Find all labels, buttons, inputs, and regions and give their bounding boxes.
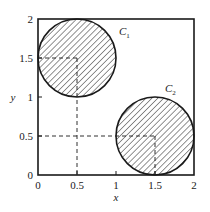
diagram-canvas: 0 0.5 1 1.5 2 0 0.5 1 1.5 2 x y C1 C2 (0, 0, 210, 212)
x-tick-2: 2 (191, 179, 197, 191)
diagram-figure: 0 0.5 1 1.5 2 0 0.5 1 1.5 2 x y C1 C2 (0, 0, 210, 212)
y-tick-1-5: 1.5 (19, 52, 33, 64)
x-tick-1: 1 (113, 179, 119, 191)
circle-c1-label: C1 (119, 25, 130, 40)
x-axis-label: x (113, 191, 119, 203)
y-axis-label: y (10, 91, 16, 103)
y-tick-2: 2 (28, 13, 34, 25)
y-tick-0: 0 (28, 169, 34, 181)
x-tick-0-5: 0.5 (70, 179, 84, 191)
x-tick-1-5: 1.5 (148, 179, 162, 191)
y-tick-1: 1 (28, 91, 34, 103)
circle-c2-label: C2 (165, 82, 176, 97)
x-tick-0: 0 (35, 179, 41, 191)
y-tick-0-5: 0.5 (19, 130, 33, 142)
